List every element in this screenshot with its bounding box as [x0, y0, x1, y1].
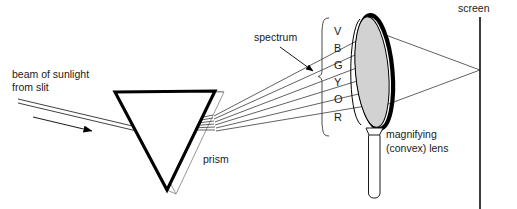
ray-blue — [214, 50, 366, 119]
lens-ferrule — [366, 128, 383, 135]
ray-green — [215, 64, 367, 122]
lens-label-line1: magnifying — [386, 128, 437, 140]
magnifying-lens — [351, 14, 398, 198]
diagram-canvas: V B G Y O R spectrum — [0, 0, 517, 209]
spectrum-letter-y: Y — [334, 76, 342, 88]
spectrum-letter-o: O — [334, 93, 343, 105]
beam-label-line1: beam of sunlight — [12, 68, 89, 80]
lens-handle — [369, 132, 381, 198]
ray-violet — [214, 36, 366, 116]
spectrum-letter-g: G — [334, 59, 343, 71]
prism-body — [115, 91, 215, 190]
spectrum-rays — [214, 36, 367, 131]
spectrum-brace — [318, 18, 329, 136]
beam-label-group: beam of sunlight from slit — [12, 68, 89, 93]
screen: screen — [458, 2, 490, 209]
lens-label-line2: (convex) lens — [386, 142, 448, 154]
beam-label-line2: from slit — [12, 81, 49, 93]
screen-label: screen — [458, 2, 490, 14]
prism-label-group: prism — [203, 153, 229, 165]
spectrum-label: spectrum — [254, 31, 297, 43]
spectrum-letter-b: B — [334, 42, 341, 54]
spectrum-label-group: spectrum — [254, 31, 313, 71]
lens-label-group: magnifying (convex) lens — [386, 128, 448, 154]
spectrum-letter-r: R — [334, 111, 342, 123]
optics-diagram: V B G Y O R spectrum — [0, 0, 517, 209]
converging-rays — [383, 34, 480, 106]
ray-yellow — [215, 78, 367, 125]
prism-label: prism — [203, 153, 229, 165]
spectrum-letter-v: V — [334, 25, 342, 37]
beam-direction-arrow — [33, 117, 92, 131]
